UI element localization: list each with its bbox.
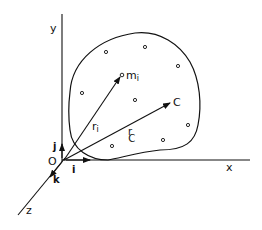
j-label: j <box>52 141 56 152</box>
particle <box>143 45 146 48</box>
z-axis-label: z <box>26 204 32 217</box>
particle <box>110 144 113 147</box>
c-label: C <box>173 96 181 109</box>
center-of-mass-diagram: y x z O j i k mi C ri rC <box>0 0 262 230</box>
particle <box>176 64 179 67</box>
r-c-label: rC <box>128 126 135 144</box>
particle <box>186 123 189 126</box>
m-i-label: mi <box>126 69 139 83</box>
r-i-label: ri <box>92 120 99 134</box>
k-label: k <box>53 174 60 185</box>
y-axis-label: y <box>50 22 57 35</box>
particle <box>161 138 164 141</box>
x-axis-label: x <box>226 161 233 174</box>
particle-m-i <box>120 73 124 77</box>
particle <box>104 50 107 53</box>
i-label: i <box>72 164 75 175</box>
vector-r-c <box>64 103 170 160</box>
origin-label: O <box>48 155 57 168</box>
particle <box>80 91 83 94</box>
particle <box>133 98 136 101</box>
